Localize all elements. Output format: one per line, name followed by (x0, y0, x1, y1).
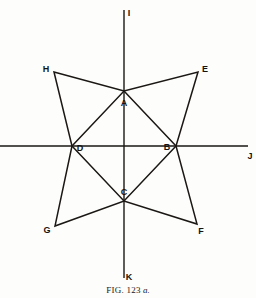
axis-label-k: K (126, 273, 133, 282)
vertex-label-d: D (77, 144, 84, 153)
vertex-label-f: F (198, 227, 204, 236)
caption-suffix: a. (143, 285, 150, 295)
vertex-label-a: A (121, 99, 128, 108)
vertex-label-c: C (121, 188, 128, 197)
figure-caption: FIG. 123 a. (0, 285, 256, 295)
vertex-label-h: H (43, 65, 50, 74)
figure-page: A B C D E F G H I K J FIG. 123 a. (0, 0, 256, 298)
caption-prefix: FIG. (106, 285, 124, 295)
axis-label-j: J (247, 152, 252, 161)
geometric-figure-diagram (0, 0, 256, 298)
vertex-label-e: E (202, 65, 208, 74)
caption-number: 123 (126, 285, 140, 295)
vertex-label-g: G (43, 226, 50, 235)
vertex-label-b: B (164, 143, 171, 152)
axis-label-i: I (128, 9, 131, 18)
